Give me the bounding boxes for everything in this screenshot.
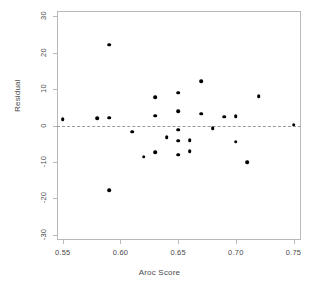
- data-point: [176, 153, 180, 157]
- data-point: [246, 160, 250, 164]
- x-axis-tick: [236, 240, 237, 244]
- y-axis-tick-label: -30: [39, 226, 48, 242]
- data-point: [188, 138, 192, 142]
- data-point: [153, 150, 157, 154]
- data-point: [130, 130, 134, 134]
- data-point: [153, 95, 157, 99]
- x-axis-label: Aroc Score: [0, 268, 319, 277]
- data-point: [107, 188, 111, 192]
- data-point: [188, 149, 192, 153]
- data-point: [234, 140, 238, 144]
- data-point: [211, 126, 215, 130]
- data-point: [165, 136, 169, 140]
- data-point: [142, 155, 146, 159]
- data-point: [96, 116, 100, 120]
- x-axis-tick-label: 0.60: [113, 248, 128, 257]
- plot-area: [57, 11, 301, 240]
- x-axis-tick-label: 0.65: [170, 248, 185, 257]
- data-point: [176, 91, 180, 95]
- data-point: [257, 95, 261, 99]
- x-axis-tick: [120, 240, 121, 244]
- x-axis-tick: [178, 240, 179, 244]
- data-point: [176, 109, 180, 113]
- data-point: [61, 118, 65, 122]
- y-axis-tick-label: -20: [39, 190, 48, 206]
- y-axis-tick-label: 10: [39, 81, 48, 97]
- data-point: [176, 139, 180, 143]
- data-point: [107, 43, 111, 47]
- x-axis-tick-label: 0.75: [286, 248, 301, 257]
- x-axis-tick: [294, 240, 295, 244]
- data-point: [222, 115, 226, 119]
- x-axis-tick: [63, 240, 64, 244]
- data-point: [199, 112, 203, 116]
- x-axis-tick-label: 0.55: [55, 248, 70, 257]
- data-point: [107, 116, 111, 120]
- residual-scatter-plot: Residual 3020100-10-20-30 0.550.600.650.…: [0, 0, 319, 292]
- data-point: [153, 114, 157, 118]
- y-axis-tick-label: -10: [39, 153, 48, 169]
- x-axis-tick-label: 0.70: [228, 248, 243, 257]
- y-axis-label: Residual: [13, 79, 22, 112]
- y-axis-tick-label: 30: [39, 8, 48, 24]
- data-point: [292, 123, 296, 127]
- data-point: [199, 79, 203, 83]
- data-point: [176, 128, 180, 132]
- y-axis-tick-label: 20: [39, 44, 48, 60]
- y-axis-tick-label: 0: [39, 117, 48, 133]
- data-point: [234, 115, 238, 119]
